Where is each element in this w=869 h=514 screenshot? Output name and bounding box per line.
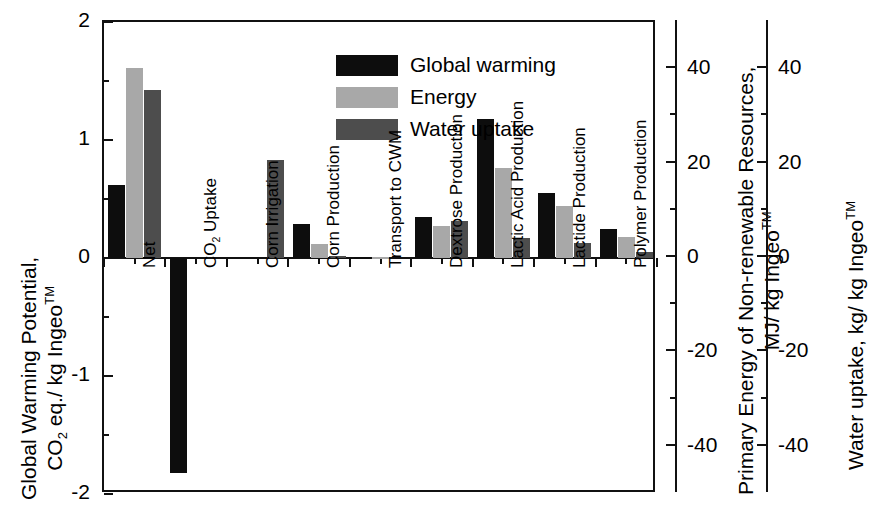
energy-axis-major-tick xyxy=(666,161,675,163)
category-label-lactic-acid-production: Lactic Acid Production xyxy=(508,101,528,268)
legend-swatch xyxy=(336,87,398,108)
left-axis-tick-label: -1 xyxy=(71,362,90,386)
left-axis-title: Global Warming Potential, CO2 eq./ kg In… xyxy=(16,257,67,500)
energy-axis-major-tick xyxy=(666,66,675,68)
left-axis-tick-label: 0 xyxy=(78,244,90,268)
water-axis-tick-label: 40 xyxy=(778,55,801,79)
energy-axis-tick-label: 0 xyxy=(687,244,699,268)
energy-axis-major-tick xyxy=(666,255,675,257)
water-axis-minor-tick xyxy=(761,113,766,115)
x-axis-tick xyxy=(656,258,658,267)
legend-item: Global warming xyxy=(336,52,556,78)
water-axis-minor-tick xyxy=(761,397,766,399)
bar xyxy=(415,217,432,258)
left-axis-tick-label: 1 xyxy=(78,126,90,150)
category-label-lactide-production: Lactide Production xyxy=(570,127,590,268)
energy-axis-title: Primary Energy of Non-renewable Resource… xyxy=(733,67,784,495)
left-axis-tick-label: -2 xyxy=(71,480,90,504)
water-axis-minor-tick xyxy=(761,208,766,210)
category-label-polymer-production: Polymer Production xyxy=(631,120,651,268)
water-axis-line xyxy=(766,20,768,492)
bar xyxy=(293,224,310,258)
water-axis-tick-label: 0 xyxy=(778,244,790,268)
energy-axis-tick-label: 40 xyxy=(687,55,710,79)
energy-axis-minor-tick xyxy=(670,208,675,210)
water-axis-major-tick xyxy=(757,66,766,68)
energy-axis-minor-tick xyxy=(670,113,675,115)
bar xyxy=(144,90,161,258)
energy-axis-tick-label: 20 xyxy=(687,150,710,174)
energy-axis-tick-label: -20 xyxy=(687,338,717,362)
energy-axis-major-tick xyxy=(666,444,675,446)
water-axis-major-tick xyxy=(757,444,766,446)
water-axis-tick-label: 20 xyxy=(778,150,801,174)
bar xyxy=(538,193,555,258)
water-axis-minor-tick xyxy=(761,302,766,304)
bar xyxy=(126,68,143,258)
legend-label: Global warming xyxy=(410,53,556,77)
category-label-net: Net xyxy=(140,242,160,268)
water-axis-major-tick xyxy=(757,255,766,257)
water-axis-title: Water uptake, kg/ kg IngeoTM xyxy=(843,201,869,470)
water-axis-tick-label: -20 xyxy=(778,338,808,362)
energy-axis-tick-label: -40 xyxy=(687,433,717,457)
legend-label: Energy xyxy=(410,85,477,109)
category-label-corn-production: Corn Production xyxy=(324,145,344,268)
bar xyxy=(600,229,617,259)
category-label-corn-irrigation: Corn Irrigation xyxy=(263,160,283,268)
water-axis-major-tick xyxy=(757,349,766,351)
left-axis-title-line1: Global Warming Potential, xyxy=(17,257,40,500)
water-axis-major-tick xyxy=(757,161,766,163)
energy-axis-title-line2: MJ/ kg IngeoTM xyxy=(760,211,783,350)
energy-axis-major-tick xyxy=(666,349,675,351)
water-axis-tick-label: -40 xyxy=(778,433,808,457)
energy-axis-title-line1: Primary Energy of Non-renewable Resource… xyxy=(734,67,757,495)
bar xyxy=(108,185,125,258)
bar xyxy=(170,258,187,473)
left-axis-title-line2: CO2 eq./ kg IngeoTM xyxy=(43,286,66,471)
energy-axis-minor-tick xyxy=(670,302,675,304)
bar xyxy=(354,257,371,259)
energy-axis-minor-tick xyxy=(670,397,675,399)
category-label-co2-uptake: CO2 Uptake xyxy=(201,178,221,268)
legend-swatch xyxy=(336,55,398,76)
water-axis-title-text: Water uptake, kg/ kg IngeoTM xyxy=(844,201,867,470)
left-axis-major-tick xyxy=(104,493,113,495)
left-axis-tick-label: 2 xyxy=(78,8,90,32)
energy-axis-line xyxy=(675,20,677,492)
category-label-dextrose-production: Dextrose Production xyxy=(447,114,467,268)
category-label-transport-to-cwm: Transport to CWM xyxy=(386,130,406,268)
